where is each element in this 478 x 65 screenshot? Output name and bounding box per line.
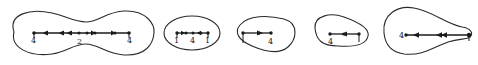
panel-5-outline [384, 7, 472, 54]
panel-5: 4 [384, 7, 472, 54]
panel-2-label-left: 1 [174, 36, 179, 45]
arrow-left-icon [413, 32, 419, 37]
arrow-left-icon [67, 31, 72, 36]
panel-2-node [175, 31, 178, 34]
panel-1-node [78, 32, 81, 35]
panel-1-label-mid: 2 [77, 37, 82, 46]
arrow-left-icon [341, 32, 347, 37]
arrow-right-icon [91, 31, 96, 36]
panel-2-node [192, 32, 195, 35]
panel-5-label-left: 4 [399, 31, 404, 40]
panel-4-label-left: 4 [328, 37, 333, 46]
panel-1-node [32, 31, 36, 35]
panel-1-node [86, 32, 89, 35]
arrow-left-icon [43, 31, 48, 36]
panel-3-node [241, 31, 244, 34]
panel-4-outline [315, 15, 368, 46]
panel-1-label-right: 4 [127, 36, 132, 45]
panel-5-node [404, 33, 407, 36]
panel-4: 4 [315, 15, 368, 46]
panel-2-label-right: 1 [205, 36, 210, 45]
arrow-left-icon [197, 31, 201, 35]
panel-2-label-mid: 4 [190, 36, 195, 45]
arrow-right-icon [181, 31, 185, 35]
arrow-left-icon [59, 31, 64, 36]
panel-1-label-left: 4 [31, 36, 36, 45]
panel-3-label-right: 4 [268, 37, 273, 46]
panel-4-node [357, 32, 360, 35]
panel-1: 4 2 4 [13, 11, 154, 55]
panel-3: 4 [237, 17, 295, 52]
panel-4-node [328, 32, 331, 35]
panel-2: 1 4 1 [164, 16, 220, 50]
arrow-right-icon [257, 31, 263, 36]
figure-canvas: 4 2 4 1 4 1 4 4 [0, 0, 478, 65]
panel-2-node [206, 31, 209, 34]
arrow-right-icon [111, 31, 116, 36]
panel-3-outline [237, 17, 295, 52]
panel-3-node [269, 31, 272, 34]
